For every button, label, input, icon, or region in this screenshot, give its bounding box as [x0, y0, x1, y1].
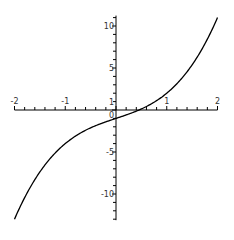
y-tick-label: 10 — [104, 22, 114, 31]
y-tick-label: -10 — [101, 190, 114, 199]
x-tick-label: 1 — [164, 97, 169, 106]
x-tick-label: -2 — [11, 97, 19, 106]
y-tick-label: 1 — [109, 98, 114, 107]
y-tick-label: -5 — [106, 148, 114, 157]
function-plot: -2-11210510-5-10 — [0, 0, 234, 240]
y-tick-label: 5 — [109, 64, 114, 73]
x-tick-label: -1 — [61, 97, 69, 106]
x-tick-label: 2 — [215, 97, 220, 106]
